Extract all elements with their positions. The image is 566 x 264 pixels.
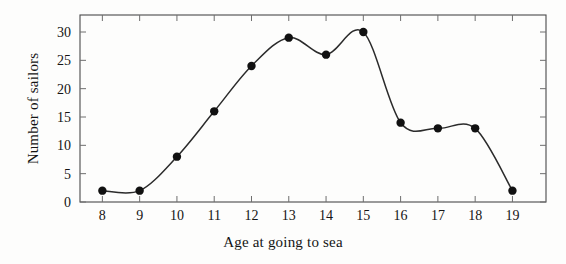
data-point xyxy=(359,28,367,36)
svg-text:18: 18 xyxy=(468,208,482,223)
data-point xyxy=(434,124,442,132)
svg-text:17: 17 xyxy=(431,208,445,223)
plot-frame xyxy=(80,15,546,202)
svg-text:13: 13 xyxy=(282,208,296,223)
data-point xyxy=(396,118,404,126)
svg-text:25: 25 xyxy=(57,53,71,68)
chart-figure: Number of sailors Age at going to sea 05… xyxy=(0,0,566,264)
data-point xyxy=(471,124,479,132)
data-point xyxy=(508,186,516,194)
line-chart-plot: 051015202530 8910111213141516171819 xyxy=(0,0,566,264)
svg-text:8: 8 xyxy=(99,208,106,223)
data-point xyxy=(135,186,143,194)
svg-text:5: 5 xyxy=(64,167,71,182)
svg-text:11: 11 xyxy=(207,208,220,223)
svg-text:9: 9 xyxy=(136,208,143,223)
data-series xyxy=(102,30,512,194)
svg-text:15: 15 xyxy=(57,110,71,125)
y-axis-ticks: 051015202530 xyxy=(57,25,546,210)
svg-text:10: 10 xyxy=(170,208,184,223)
svg-text:16: 16 xyxy=(394,208,408,223)
svg-text:30: 30 xyxy=(57,25,71,40)
svg-text:20: 20 xyxy=(57,82,71,97)
svg-text:15: 15 xyxy=(356,208,370,223)
data-point xyxy=(322,50,330,58)
data-point xyxy=(285,33,293,41)
data-markers xyxy=(98,28,516,195)
svg-text:19: 19 xyxy=(505,208,519,223)
svg-text:10: 10 xyxy=(57,138,71,153)
svg-text:14: 14 xyxy=(319,208,333,223)
svg-text:12: 12 xyxy=(244,208,258,223)
data-point xyxy=(98,186,106,194)
data-point xyxy=(173,152,181,160)
data-point xyxy=(210,107,218,115)
svg-text:0: 0 xyxy=(64,195,71,210)
data-point xyxy=(247,62,255,70)
